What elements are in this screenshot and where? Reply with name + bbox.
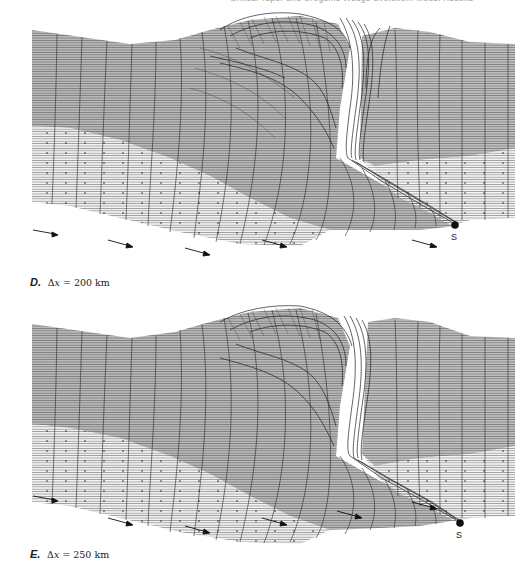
velocity-arrows-d-bottom	[0, 236, 520, 272]
panel-d-figure: S	[0, 8, 520, 248]
singularity-point	[451, 221, 459, 229]
panel-letter: D.	[30, 276, 41, 288]
running-head: Critical Taper and Orogenic Wedge Evolut…	[230, 0, 520, 4]
deformation-grid-d: S	[0, 8, 520, 248]
delta-x-label: Δx = 200 km	[48, 277, 110, 288]
singularity-label: S	[456, 530, 462, 540]
panel-d-caption: D. Δx = 200 km	[30, 276, 110, 288]
panel-e-figure: S	[0, 296, 520, 546]
panel-e-caption: E. Δx = 250 km	[30, 548, 109, 560]
singularity-point	[456, 519, 464, 527]
deformation-grid-e: S	[0, 296, 520, 546]
delta-x-label: Δx = 250 km	[47, 549, 109, 560]
panel-letter: E.	[30, 548, 40, 560]
